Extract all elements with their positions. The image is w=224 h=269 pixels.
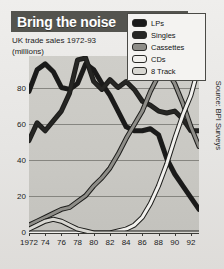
x-tick-label-82: 82 (103, 238, 117, 247)
x-tick-90 (175, 233, 176, 236)
x-tick-label-76: 76 (54, 238, 68, 247)
y-tick-label-20: 20 (4, 192, 26, 201)
x-tick-label-74: 74 (38, 238, 52, 247)
x-tick-label-1972: 1972 (18, 238, 40, 247)
y-tick-label-80: 80 (4, 84, 26, 93)
legend-swatch-cds (132, 55, 147, 63)
x-tick-86 (142, 233, 143, 236)
chart-figure: Bring the noise UK trade sales 1972-93 (… (0, 0, 224, 269)
y-tick-label-0: 0 (4, 228, 26, 237)
legend-swatch-8track (132, 67, 147, 75)
x-tick-label-86: 86 (135, 238, 149, 247)
legend-item-singles[interactable]: Singles (132, 29, 202, 41)
y-tick-label-40: 40 (4, 156, 26, 165)
legend-label-singles: Singles (151, 31, 176, 40)
legend-label-8track: 8 Track (151, 67, 176, 76)
legend-item-cds[interactable]: CDs (132, 53, 202, 65)
page-title: Bring the noise (11, 14, 116, 30)
legend-swatch-singles (132, 31, 147, 39)
x-tick-label-90: 90 (168, 238, 182, 247)
x-axis-line (29, 233, 199, 234)
y-tick-label-60: 60 (4, 120, 26, 129)
plot-area (29, 56, 199, 233)
legend-item-lps[interactable]: LPs (132, 17, 202, 29)
x-tick-82 (110, 233, 111, 236)
x-tick-78 (78, 233, 79, 236)
chart-subtitle: UK trade sales 1972-93 (millions) (12, 36, 142, 57)
x-tick-label-92: 92 (184, 238, 198, 247)
x-tick-76 (61, 233, 62, 236)
legend-label-cds: CDs (151, 55, 166, 64)
legend-item-8track[interactable]: 8 Track (132, 65, 202, 77)
source-credit: Source: BPI Surveys (214, 81, 223, 150)
x-tick-label-78: 78 (71, 238, 85, 247)
x-tick-84 (126, 233, 127, 236)
x-tick-88 (159, 233, 160, 236)
x-tick-label-88: 88 (152, 238, 166, 247)
legend-swatch-cassettes (132, 43, 147, 51)
x-tick-label-80: 80 (87, 238, 101, 247)
x-tick-80 (94, 233, 95, 236)
legend-label-lps: LPs (151, 19, 164, 28)
legend-item-cassettes[interactable]: Cassettes (132, 41, 202, 53)
x-tick-label-84: 84 (119, 238, 133, 247)
x-tick-74 (45, 233, 46, 236)
x-tick-92 (191, 233, 192, 236)
chart-subtitle-line1: UK trade sales 1972-93 (12, 36, 142, 47)
x-tick-1972 (29, 233, 30, 236)
legend-swatch-lps (132, 19, 147, 27)
legend-label-cassettes: Cassettes (151, 43, 184, 52)
series-casing-cds (29, 66, 199, 233)
legend: LPs Singles Cassettes CDs 8 Track (127, 13, 206, 81)
series-lines (29, 56, 199, 233)
